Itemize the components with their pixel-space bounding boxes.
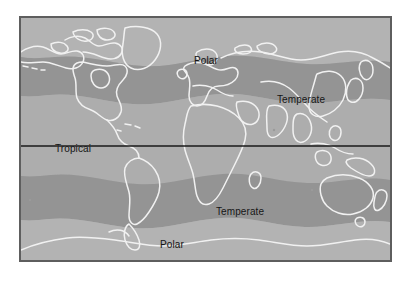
zone-band-tropical [21,94,390,185]
zone-label-tropical: Tropical [55,143,91,154]
map-frame: Polar Temperate Tropical Temperate Polar [19,16,392,262]
zone-label-polar-south: Polar [160,239,184,250]
zone-label-temperate-north: Temperate [277,94,325,105]
world-climate-zone-map: Polar Temperate Tropical Temperate Polar [0,0,414,281]
zone-label-polar-north: Polar [194,55,218,66]
zone-label-temperate-south: Temperate [216,206,264,217]
